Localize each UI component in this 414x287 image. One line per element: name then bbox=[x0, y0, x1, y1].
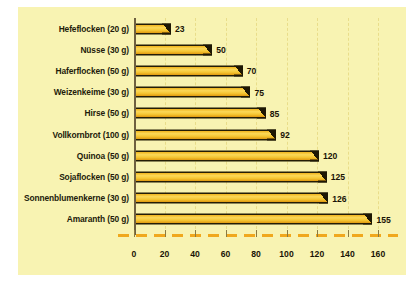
bar-value-label: 23 bbox=[175, 24, 185, 34]
category-label: Hefeflocken (20 g) bbox=[18, 24, 129, 34]
bar bbox=[136, 44, 212, 55]
category-label: Sojaflocken (50 g) bbox=[18, 172, 129, 182]
bar-row: Weizenkeime (30 g)75 bbox=[18, 82, 406, 103]
x-axis-tick-mark bbox=[165, 230, 166, 237]
plot-area: Hefeflocken (20 g)23Nüsse (30 g)50Haferf… bbox=[18, 7, 406, 275]
bar bbox=[136, 108, 266, 119]
x-axis-tick-label: 100 bbox=[279, 249, 293, 259]
bar-group: 75 bbox=[136, 87, 264, 98]
bar-tip-wedge bbox=[234, 65, 243, 76]
bar-value-label: 92 bbox=[280, 130, 290, 140]
x-axis-tick-mark bbox=[134, 230, 135, 237]
bar bbox=[136, 193, 328, 204]
bar-tip-wedge bbox=[310, 150, 319, 161]
bar-value-label: 125 bbox=[331, 172, 345, 182]
category-label: Amaranth (50 g) bbox=[18, 214, 129, 224]
bar-row: Haferflocken (50 g)70 bbox=[18, 60, 406, 81]
bar-row: Hefeflocken (20 g)23 bbox=[18, 18, 406, 39]
category-label: Nüsse (30 g) bbox=[18, 45, 129, 55]
bar-group: 155 bbox=[136, 214, 391, 225]
bar-group: 125 bbox=[136, 171, 345, 182]
x-axis-tick-mark bbox=[226, 230, 227, 237]
chart-panel: Hefeflocken (20 g)23Nüsse (30 g)50Haferf… bbox=[18, 7, 406, 275]
bar-value-label: 155 bbox=[376, 214, 390, 224]
bar-tip-wedge bbox=[319, 193, 328, 204]
bar-group: 120 bbox=[136, 150, 337, 161]
bar-tip-wedge bbox=[363, 214, 372, 225]
category-label: Vollkornbrot (100 g) bbox=[18, 130, 129, 140]
x-axis-tick-label: 60 bbox=[221, 249, 231, 259]
x-axis-tick-label: 0 bbox=[132, 249, 137, 259]
category-label: Hirse (50 g) bbox=[18, 108, 129, 118]
x-axis-tick-label: 20 bbox=[160, 249, 170, 259]
bar bbox=[136, 171, 327, 182]
bar-rows: Hefeflocken (20 g)23Nüsse (30 g)50Haferf… bbox=[18, 18, 406, 230]
category-label: Weizenkeime (30 g) bbox=[18, 87, 129, 97]
bar-row: Quinoa (50 g)120 bbox=[18, 145, 406, 166]
bar-value-label: 120 bbox=[323, 151, 337, 161]
bar-row: Sojaflocken (50 g)125 bbox=[18, 166, 406, 187]
bar-tip-wedge bbox=[318, 171, 327, 182]
category-label: Sonnenblumenkerne (30 g) bbox=[18, 193, 129, 203]
bar-group: 50 bbox=[136, 44, 226, 55]
bar-value-label: 75 bbox=[254, 87, 264, 97]
x-axis-tick-mark bbox=[256, 230, 257, 237]
x-axis-tick-labels: 020406080100120140160 bbox=[18, 249, 406, 261]
x-axis-tick-label: 140 bbox=[340, 249, 354, 259]
bar bbox=[136, 87, 250, 98]
bar-value-label: 85 bbox=[270, 108, 280, 118]
bar bbox=[136, 65, 243, 76]
bar-group: 126 bbox=[136, 193, 346, 204]
x-axis-tick-mark bbox=[317, 230, 318, 237]
bar bbox=[136, 23, 171, 34]
bar bbox=[136, 150, 319, 161]
x-axis-tick-label: 120 bbox=[310, 249, 324, 259]
x-axis-tick-label: 40 bbox=[190, 249, 200, 259]
x-axis-tick-mark bbox=[195, 230, 196, 237]
bar-tip-wedge bbox=[203, 44, 212, 55]
bar-value-label: 50 bbox=[216, 45, 226, 55]
x-axis-tick-label: 160 bbox=[371, 249, 385, 259]
bar-tip-wedge bbox=[257, 108, 266, 119]
bar-value-label: 126 bbox=[332, 193, 346, 203]
x-axis-tick-mark bbox=[348, 230, 349, 237]
bar bbox=[136, 129, 276, 140]
x-axis-tick-mark bbox=[287, 230, 288, 237]
bar-row: Amaranth (50 g)155 bbox=[18, 209, 406, 230]
bar-group: 23 bbox=[136, 23, 185, 34]
x-axis-tick-label: 80 bbox=[251, 249, 261, 259]
bar-row: Nüsse (30 g)50 bbox=[18, 39, 406, 60]
bar-tip-wedge bbox=[162, 23, 171, 34]
bar bbox=[136, 214, 372, 225]
category-label: Quinoa (50 g) bbox=[18, 151, 129, 161]
x-axis-tick-mark bbox=[378, 230, 379, 237]
bar-group: 85 bbox=[136, 108, 279, 119]
bar-group: 70 bbox=[136, 65, 256, 76]
category-label: Haferflocken (50 g) bbox=[18, 66, 129, 76]
baseline-dashed-line bbox=[118, 234, 398, 237]
bar-tip-wedge bbox=[267, 129, 276, 140]
bar-row: Vollkornbrot (100 g)92 bbox=[18, 124, 406, 145]
bar-row: Hirse (50 g)85 bbox=[18, 103, 406, 124]
bar-row: Sonnenblumenkerne (30 g)126 bbox=[18, 188, 406, 209]
bar-value-label: 70 bbox=[247, 66, 257, 76]
bar-tip-wedge bbox=[241, 87, 250, 98]
bar-group: 92 bbox=[136, 129, 290, 140]
